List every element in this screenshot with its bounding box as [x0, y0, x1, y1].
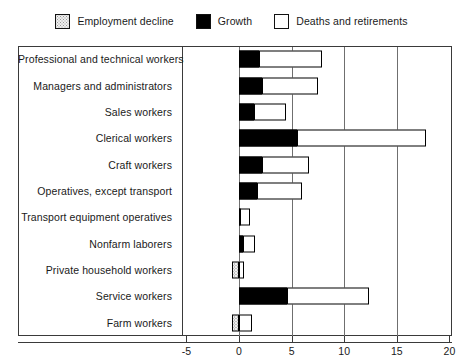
bar-segment-growth	[239, 288, 287, 305]
x-axis-tick-label: 15	[391, 345, 403, 357]
x-axis-tick	[239, 336, 240, 342]
legend-label-growth: Growth	[218, 15, 252, 27]
x-axis: -505101520	[18, 336, 452, 364]
chart-row: Craft workers	[18, 151, 452, 177]
x-axis-tick-label: -5	[182, 345, 191, 357]
x-axis-tick-label: 5	[289, 345, 295, 357]
bar-area	[182, 231, 452, 257]
legend-item-deaths-and-retirements: Deaths and retirements	[274, 14, 407, 29]
bar-area	[182, 257, 452, 283]
chart-root: Employment decline Growth Deaths and ret…	[0, 0, 463, 364]
bar-area	[182, 99, 452, 125]
bar-area	[182, 178, 452, 204]
bar-area	[182, 125, 452, 151]
x-axis-tick	[449, 336, 450, 342]
bar-segment-growth	[239, 51, 259, 68]
chart-row: Clerical workers	[18, 125, 452, 151]
chart-row: Sales workers	[18, 99, 452, 125]
chart-row: Managers and administrators	[18, 72, 452, 98]
x-axis-tick-label: 0	[236, 345, 242, 357]
x-axis-tick-label: 20	[444, 345, 456, 357]
x-axis-line	[18, 342, 452, 343]
category-label: Farm workers	[18, 317, 182, 329]
legend-item-growth: Growth	[196, 14, 252, 29]
bar-segment-deaths-and-retirements	[239, 262, 244, 279]
x-axis-tick	[186, 336, 187, 342]
bar-area	[182, 72, 452, 98]
bar-segment-deaths-and-retirements	[240, 209, 249, 226]
bar-segment-deaths-and-retirements	[297, 130, 426, 147]
legend-swatch-hatched-icon	[55, 14, 70, 29]
chart-row: Professional and technical workers	[18, 46, 452, 72]
chart-row: Nonfarm laborers	[18, 231, 452, 257]
bar-segment-employment-decline	[232, 314, 239, 331]
legend-label-employment-decline: Employment decline	[77, 15, 173, 27]
chart-rows: Professional and technical workersManage…	[18, 46, 452, 336]
bar-area	[182, 46, 452, 72]
chart-row: Service workers	[18, 283, 452, 309]
legend-item-employment-decline: Employment decline	[55, 14, 173, 29]
category-label: Craft workers	[18, 159, 182, 171]
legend-swatch-white-icon	[274, 14, 289, 29]
x-axis-tick-label: 10	[338, 345, 350, 357]
category-label: Operatives, except transport	[18, 185, 182, 197]
bar-segment-deaths-and-retirements	[287, 288, 369, 305]
bar-segment-deaths-and-retirements	[239, 314, 252, 331]
category-label: Service workers	[18, 290, 182, 302]
category-label: Clerical workers	[18, 132, 182, 144]
x-axis-tick	[344, 336, 345, 342]
bar-segment-growth	[239, 103, 254, 120]
bar-area	[182, 151, 452, 177]
legend-label-deaths-and-retirements: Deaths and retirements	[296, 15, 407, 27]
bar-segment-deaths-and-retirements	[257, 183, 302, 200]
chart-row: Private household workers	[18, 257, 452, 283]
bar-segment-deaths-and-retirements	[262, 156, 309, 173]
bar-segment-growth	[239, 156, 262, 173]
bar-segment-deaths-and-retirements	[262, 77, 318, 94]
x-axis-tick	[397, 336, 398, 342]
chart-row: Operatives, except transport	[18, 178, 452, 204]
chart-row: Transport equipment operatives	[18, 204, 452, 230]
bar-segment-deaths-and-retirements	[259, 51, 322, 68]
legend-swatch-black-icon	[196, 14, 211, 29]
category-label: Sales workers	[18, 106, 182, 118]
bar-segment-employment-decline	[232, 262, 239, 279]
bar-segment-growth	[239, 77, 262, 94]
chart-row: Farm workers	[18, 310, 452, 336]
bar-segment-growth	[239, 183, 257, 200]
chart-legend: Employment decline Growth Deaths and ret…	[0, 8, 463, 34]
category-label: Nonfarm laborers	[18, 238, 182, 250]
category-label: Managers and administrators	[18, 80, 182, 92]
category-label: Transport equipment operatives	[18, 211, 182, 223]
bar-segment-deaths-and-retirements	[254, 103, 287, 120]
bar-area	[182, 283, 452, 309]
bar-segment-deaths-and-retirements	[243, 235, 255, 252]
bar-area	[182, 310, 452, 336]
bar-area	[182, 204, 452, 230]
category-label: Private household workers	[18, 264, 182, 276]
category-label: Professional and technical workers	[18, 53, 182, 65]
x-axis-tick	[292, 336, 293, 342]
bar-segment-growth	[239, 130, 297, 147]
